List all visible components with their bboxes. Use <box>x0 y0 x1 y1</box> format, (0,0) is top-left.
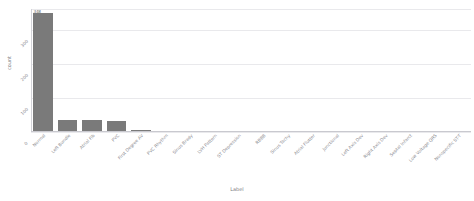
x-axis-title: Label <box>0 186 474 192</box>
x-tick-label: Atrial Flutter <box>293 133 316 156</box>
x-tick-label: Left Axis Dev <box>341 133 365 157</box>
y-tick: 0 <box>0 129 27 135</box>
x-tick-label: Septal Infarct <box>389 133 413 157</box>
x-tick-label: Sinus Brady <box>171 133 193 155</box>
y-tick-label: 200 <box>19 72 28 81</box>
x-tick-label: PVC Rhythm <box>146 133 169 156</box>
y-tick: 200 <box>0 61 27 67</box>
bar-series <box>31 9 471 132</box>
x-tick-label: Right Axis Dev <box>363 133 389 159</box>
y-tick-label: 100 <box>19 107 28 116</box>
x-tick-label: Nonspecific ST-T <box>434 133 463 162</box>
y-tick-label: 0 <box>23 141 29 147</box>
y-axis-title: count <box>6 38 12 88</box>
bar <box>33 13 53 132</box>
x-tick-label: RBBB <box>255 133 267 145</box>
x-tick-label: Junctional <box>321 133 340 152</box>
x-tick-label: Left Bundle <box>50 133 71 154</box>
x-axis-line <box>31 131 471 132</box>
y-tick-label: 300 <box>19 38 28 47</box>
x-tick-label: Normal <box>32 133 47 148</box>
y-axis-line <box>31 9 32 132</box>
y-tick: 100 <box>0 95 27 101</box>
plot-area: 348 <box>31 9 471 132</box>
y-tick: 300 <box>0 27 27 33</box>
bar-chart-figure: 348 0100200300 NormalLeft BundleAtrial F… <box>0 0 474 201</box>
y-axis-ticks: 0100200300 <box>0 0 30 201</box>
x-tick-label: First Degree AV <box>117 133 144 160</box>
x-axis-ticks: NormalLeft BundleAtrial FibPVCFirst Degr… <box>31 133 471 181</box>
x-tick-label: PVC <box>110 133 120 143</box>
bar-value-annotation: 348 <box>33 9 40 14</box>
x-tick-label: ST Depression <box>217 133 243 159</box>
x-tick-label: LVH Pattern <box>196 133 218 155</box>
x-tick-label: Sinus Tachy <box>269 133 291 155</box>
x-tick-label: Atrial Fib <box>79 133 96 150</box>
